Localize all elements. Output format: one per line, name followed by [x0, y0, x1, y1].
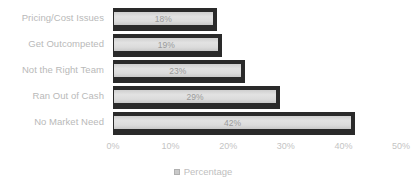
category-axis: Pricing/Cost Issues Get Outcompeted Not …	[0, 7, 108, 135]
bar-fill	[114, 90, 276, 103]
bar-ran-out-of-cash[interactable]: 29%	[113, 86, 280, 109]
bar-get-outcompeted[interactable]: 19%	[113, 34, 222, 57]
bar-fill	[114, 38, 218, 51]
category-label-no-market-need: No Market Need	[0, 116, 104, 127]
bar-fill	[114, 12, 213, 25]
legend-swatch-percentage-icon	[174, 169, 180, 175]
legend-label-percentage: Percentage	[184, 166, 233, 177]
bar-fill	[114, 64, 241, 77]
x-tick-label: 10%	[151, 140, 191, 152]
category-label-not-the-right-team: Not the Right Team	[0, 64, 104, 75]
bar-fill	[114, 116, 351, 129]
category-label-ran-out-of-cash: Ran Out of Cash	[0, 90, 104, 101]
x-tick-label: 20%	[208, 140, 248, 152]
x-axis: 0% 10% 20% 30% 40% 50%	[113, 140, 401, 154]
chart-legend: Percentage	[0, 166, 406, 177]
plot-area: 18% 19% 23% 29% 42%	[113, 6, 401, 137]
category-label-pricing-cost-issues: Pricing/Cost Issues	[0, 12, 104, 23]
x-tick-label: 30%	[266, 140, 306, 152]
x-tick-label: 0%	[93, 140, 133, 152]
bar-pricing-cost-issues[interactable]: 18%	[113, 8, 217, 31]
x-tick-label: 50%	[381, 140, 415, 152]
x-tick-label: 40%	[323, 140, 363, 152]
bar-no-market-need[interactable]: 42%	[113, 112, 355, 135]
bar-not-the-right-team[interactable]: 23%	[113, 60, 245, 83]
category-label-get-outcompeted: Get Outcompeted	[0, 38, 104, 49]
